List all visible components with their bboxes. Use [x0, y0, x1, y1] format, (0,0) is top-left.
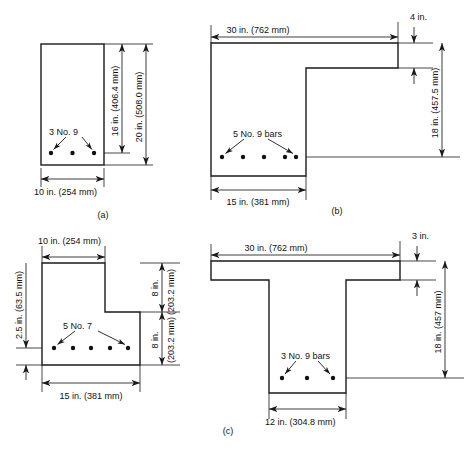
panel-c-left-lower-depth-mm-label: (203.2 mm): [166, 317, 176, 363]
panel-b-label: (b): [332, 206, 343, 216]
panel-c-left-cover-label: 2.5 in. (63.5 mm): [14, 271, 24, 339]
panel-b-group: [211, 22, 460, 200]
panel-c-right-group: [211, 241, 464, 419]
rebar-dot: [280, 376, 284, 380]
panel-b-flange-thickness-label: 4 in.: [410, 12, 427, 22]
panel-c-left-top-width-label: 10 in. (254 mm): [38, 236, 101, 246]
rebar-dot: [71, 346, 75, 350]
rebar-dot: [126, 346, 130, 350]
panel-a-effective-depth-label: 16 in. (406.4 mm): [110, 66, 120, 137]
panel-c-left-upper-depth-mm-label: (203.2 mm): [166, 269, 176, 315]
rebar-dot: [283, 155, 287, 159]
panel-c-right-flange-thickness-label: 3 in.: [412, 231, 429, 241]
panel-b-flange-width-label: 30 in. (762 mm): [226, 25, 289, 35]
rebar-dot: [52, 346, 56, 350]
panel-a-label: (a): [98, 210, 109, 220]
rebar-dot: [241, 155, 245, 159]
panel-a-bar-label: 3 No. 9: [49, 127, 78, 137]
rebar-dot: [92, 151, 96, 155]
panel-b-web-width-label: 15 in. (381 mm): [226, 197, 289, 207]
panel-c-right-web-width-label: 12 in. (304.8 mm): [265, 417, 336, 427]
inverted-l-section-outline: [211, 43, 398, 176]
panel-c-left-bar-label: 5 No. 7: [63, 321, 92, 331]
panel-c-left-upper-depth-label: 8 in.: [150, 279, 160, 296]
panel-b-effective-depth-label: 18 in. (457.5 mm): [430, 68, 440, 139]
panel-c-left-lower-depth-label: 8 in.: [150, 331, 160, 348]
panel-c-right-effective-depth-label: 18 in. (457 mm): [433, 290, 443, 353]
beam-sections-figure: 3 No. 9 10 in. (254 mm) 16 in. (406.4 mm…: [0, 0, 473, 451]
panel-c-right-flange-width-label: 30 in. (762 mm): [244, 243, 307, 253]
rebar-dot: [305, 376, 309, 380]
rebar-dot: [49, 151, 53, 155]
rebar-dot: [108, 346, 112, 350]
t-section-outline: [211, 261, 400, 393]
panel-a-width-label: 10 in. (254 mm): [34, 187, 97, 197]
rebar-dot: [220, 155, 224, 159]
rebar-dot: [331, 376, 335, 380]
rebar-dot: [262, 155, 266, 159]
rebar-dot: [70, 151, 74, 155]
rebar-dot: [294, 155, 298, 159]
panel-b-bar-label: 5 No. 9 bars: [233, 129, 283, 139]
panel-a-total-depth-label: 20 in. (508.0 mm): [134, 72, 144, 143]
panel-c-label: (c): [223, 426, 234, 436]
rebar-dot: [89, 346, 93, 350]
rectangular-section-outline: [41, 44, 104, 165]
panel-c-right-bar-label: 3 No. 9 bars: [281, 351, 331, 361]
figure-root: 3 No. 9 10 in. (254 mm) 16 in. (406.4 mm…: [0, 0, 473, 451]
panel-c-left-group: [16, 246, 180, 392]
panel-c-left-bottom-width-label: 15 in. (381 mm): [59, 391, 122, 401]
